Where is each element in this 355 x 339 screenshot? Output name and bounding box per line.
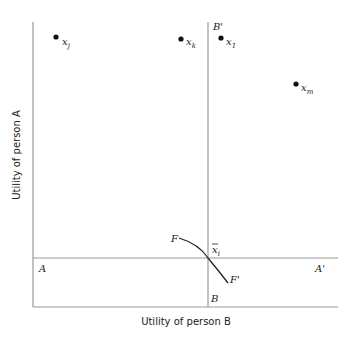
point-xk-label: xk (186, 36, 196, 50)
point-xk-dot (178, 36, 183, 41)
y-axis-title: Utility of person A (11, 110, 22, 200)
label-f-prime: F' (229, 274, 240, 285)
point-xm-label: xm (301, 82, 314, 96)
label-a-prime: A' (314, 263, 325, 274)
point-xm-dot (293, 81, 298, 86)
point-xj-dot (53, 34, 58, 39)
point-x1-label: x1 (226, 36, 236, 50)
label-b-prime: B' (212, 21, 223, 32)
label-xbar-i: xi (212, 244, 220, 258)
point-x1-dot (218, 35, 223, 40)
frontier-curve-f (179, 238, 228, 283)
label-f: F (170, 233, 179, 244)
label-a: A (38, 263, 46, 274)
utility-diagram: xj xk x1 xm B' B A A' F F' xi Utility of… (0, 0, 355, 339)
label-b: B (210, 293, 218, 304)
x-axis-title: Utility of person B (141, 316, 231, 327)
point-xj-label: xj (62, 36, 71, 50)
